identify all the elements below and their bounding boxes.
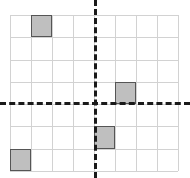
gridline-vertical-8	[178, 15, 179, 171]
shaded-cell-square-1	[31, 15, 52, 37]
gridline-vertical-1	[31, 15, 32, 171]
shaded-cell-square-4	[10, 149, 31, 171]
coordinate-grid-figure	[0, 0, 190, 178]
gridline-vertical-2	[52, 15, 53, 171]
gridline-vertical-7	[157, 15, 158, 171]
shaded-cell-square-3	[94, 126, 115, 148]
shaded-cell-square-2	[115, 82, 136, 104]
gridline-vertical-6	[136, 15, 137, 171]
gridline-vertical-0	[10, 15, 11, 171]
y-axis-dashed-line	[94, 0, 97, 178]
gridline-vertical-3	[73, 15, 74, 171]
